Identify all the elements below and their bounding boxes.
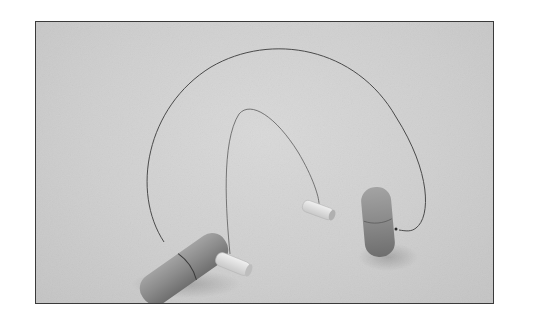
photo-frame xyxy=(35,21,494,304)
wire-cutters-illustration xyxy=(36,22,494,304)
wire-anchor xyxy=(395,228,398,231)
surface-texture xyxy=(36,22,494,304)
